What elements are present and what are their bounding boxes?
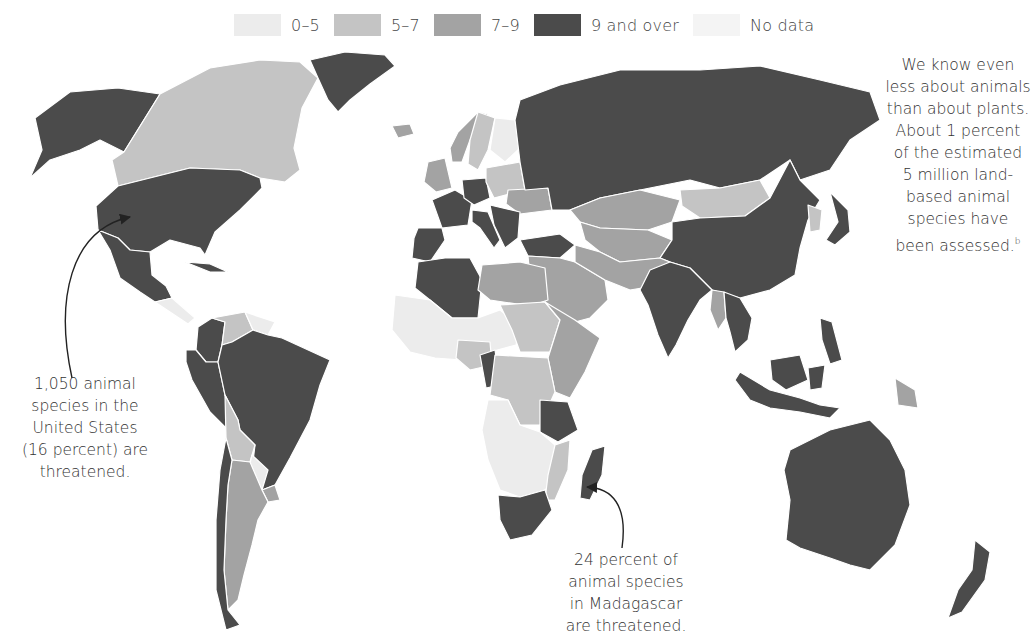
note-line: 24 percent of xyxy=(528,549,724,571)
note-line: of the estimated xyxy=(884,142,1032,164)
region-philippines xyxy=(820,318,842,364)
region-iberia xyxy=(412,228,445,262)
region-korea xyxy=(808,205,822,232)
region-cuba xyxy=(185,262,228,272)
region-new-zealand xyxy=(948,540,990,618)
note-line: in Madagascar xyxy=(528,593,724,615)
region-uk-ireland xyxy=(424,158,452,192)
note-line: been assessed.b xyxy=(884,230,1032,257)
region-libya-egypt xyxy=(478,262,548,306)
region-iceland xyxy=(392,124,414,138)
note-line: less about animals xyxy=(884,76,1032,98)
region-canada xyxy=(112,60,318,186)
animals-assessment-note: We know evenless about animalsthan about… xyxy=(884,54,1032,257)
region-myanmar xyxy=(710,290,726,330)
note-line: than about plants. xyxy=(884,98,1032,120)
note-line: (16 percent) are xyxy=(2,439,168,461)
footnote-marker: b xyxy=(1015,236,1021,246)
note-line: species have xyxy=(884,208,1032,230)
madagascar-note: 24 percent ofanimal speciesin Madagascar… xyxy=(528,549,724,637)
note-line: species in the xyxy=(2,395,168,417)
note-line: We know even xyxy=(884,54,1032,76)
region-australia xyxy=(784,420,910,570)
note-line: threatened. xyxy=(2,461,168,483)
note-line: are threatened. xyxy=(528,615,724,637)
region-madagascar xyxy=(580,446,605,500)
note-line: animal species xyxy=(528,571,724,593)
region-indonesia xyxy=(735,355,840,418)
region-tanzania xyxy=(540,400,578,442)
note-line: based animal xyxy=(884,186,1032,208)
region-central-america xyxy=(155,298,195,324)
region-russia xyxy=(515,66,880,210)
region-papua-new-guinea xyxy=(895,378,918,408)
region-japan xyxy=(826,192,850,245)
note-line: About 1 percent xyxy=(884,120,1032,142)
region-south-africa xyxy=(498,490,552,540)
note-line: 1,050 animal xyxy=(2,373,168,395)
note-line: United States xyxy=(2,417,168,439)
region-southeast-asia xyxy=(724,292,752,352)
region-turkey xyxy=(520,234,575,258)
united-states-note: 1,050 animalspecies in theUnited States(… xyxy=(2,373,168,483)
region-greenland xyxy=(310,52,395,112)
note-line: 5 million land- xyxy=(884,164,1032,186)
